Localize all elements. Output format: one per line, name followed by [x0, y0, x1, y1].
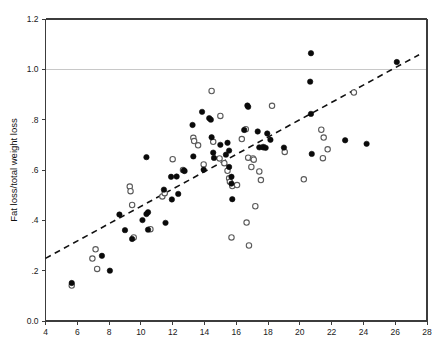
data-point-filled-15 — [174, 174, 179, 179]
data-point-filled-49 — [309, 151, 314, 156]
axes-group — [46, 19, 428, 321]
data-point-filled-12 — [163, 220, 168, 225]
data-point-filled-38 — [242, 127, 247, 132]
x-tick-label-11: 26 — [390, 327, 400, 337]
data-point-open-6 — [129, 202, 134, 207]
data-point-filled-24 — [208, 117, 213, 122]
data-point-open-20 — [217, 156, 222, 161]
scatter-plot-figure: 0.0.2.4.6.81.01.246810121416182022242628… — [0, 0, 444, 349]
data-point-filled-22 — [201, 167, 206, 172]
y-tick-label-2: .4 — [31, 215, 38, 225]
data-point-filled-7 — [144, 154, 149, 159]
data-point-filled-50 — [342, 138, 347, 143]
data-point-filled-11 — [161, 187, 166, 192]
data-point-filled-44 — [268, 137, 273, 142]
x-tick-label-2: 8 — [107, 327, 112, 337]
x-tick-label-4: 12 — [168, 327, 178, 337]
data-point-filled-1 — [99, 253, 104, 258]
data-point-open-45 — [321, 135, 326, 140]
data-point-filled-16 — [176, 191, 181, 196]
regression-line — [46, 55, 420, 259]
trend-line — [46, 55, 420, 259]
data-point-open-32 — [246, 243, 251, 248]
data-point-open-19 — [218, 113, 223, 118]
data-point-open-43 — [319, 127, 324, 132]
data-point-open-1 — [90, 256, 95, 261]
axis-labels-group: Fat loss/total weight loss — [8, 118, 19, 222]
data-point-open-5 — [128, 188, 133, 193]
data-point-filled-25 — [209, 135, 214, 140]
data-point-open-17 — [209, 88, 214, 93]
data-point-filled-46 — [308, 51, 313, 56]
x-tick-label-3: 10 — [136, 327, 146, 337]
data-point-filled-4 — [122, 227, 127, 232]
data-point-filled-0 — [69, 280, 74, 285]
x-tick-label-7: 18 — [263, 327, 273, 337]
x-tick-label-10: 24 — [359, 327, 369, 337]
data-point-filled-52 — [394, 59, 399, 64]
data-point-open-15 — [195, 143, 200, 148]
data-point-filled-35 — [230, 196, 235, 201]
y-axis-title: Fat loss/total weight loss — [8, 118, 19, 222]
data-point-filled-37 — [245, 104, 250, 109]
x-tick-label-8: 20 — [295, 327, 305, 337]
data-point-filled-5 — [129, 236, 134, 241]
data-point-filled-39 — [255, 129, 260, 134]
data-point-filled-43 — [265, 131, 270, 136]
data-point-filled-30 — [225, 140, 230, 145]
y-tick-label-3: .6 — [31, 165, 38, 175]
data-point-filled-14 — [169, 197, 174, 202]
data-points-filled — [69, 51, 399, 286]
y-tick-label-4: .8 — [31, 115, 38, 125]
data-point-open-28 — [239, 136, 244, 141]
data-point-filled-26 — [211, 150, 216, 155]
data-point-filled-9 — [145, 210, 150, 215]
y-tick-label-6: 1.2 — [27, 14, 39, 24]
data-point-filled-45 — [281, 145, 286, 150]
data-point-open-33 — [249, 164, 254, 169]
x-tick-label-5: 14 — [200, 327, 210, 337]
data-point-filled-3 — [117, 212, 122, 217]
plot-canvas: 0.0.2.4.6.81.01.246810121416182022242628… — [0, 0, 444, 349]
y-tick-label-5: 1.0 — [27, 64, 39, 74]
data-point-filled-32 — [226, 164, 231, 169]
x-tick-label-6: 16 — [232, 327, 242, 337]
data-point-filled-48 — [308, 111, 313, 116]
data-point-filled-21 — [199, 109, 204, 114]
data-point-open-3 — [94, 266, 99, 271]
data-point-filled-33 — [229, 174, 234, 179]
data-point-filled-28 — [218, 142, 223, 147]
data-point-open-21 — [222, 161, 227, 166]
data-point-open-2 — [93, 247, 98, 252]
x-tick-label-1: 6 — [75, 327, 80, 337]
data-point-filled-42 — [263, 145, 268, 150]
data-point-open-11 — [170, 156, 175, 161]
data-point-filled-13 — [168, 174, 173, 179]
data-point-open-37 — [257, 169, 262, 174]
x-tick-label-12: 28 — [422, 327, 432, 337]
data-point-filled-27 — [211, 155, 216, 160]
data-point-filled-19 — [190, 122, 195, 127]
data-point-filled-51 — [364, 141, 369, 146]
data-point-open-30 — [244, 220, 249, 225]
data-point-open-42 — [301, 177, 306, 182]
data-point-open-46 — [325, 147, 330, 152]
data-point-filled-10 — [145, 227, 150, 232]
data-point-open-35 — [251, 157, 256, 162]
data-point-open-16 — [201, 162, 206, 167]
data-point-open-38 — [258, 177, 263, 182]
x-tick-label-0: 4 — [43, 327, 48, 337]
y-tick-label-1: .2 — [31, 266, 38, 276]
y-tick-label-0: 0.0 — [27, 316, 39, 326]
data-point-open-36 — [253, 204, 258, 209]
data-point-open-27 — [234, 182, 239, 187]
data-point-filled-47 — [307, 79, 312, 84]
data-point-open-47 — [351, 90, 356, 95]
x-tick-label-9: 22 — [327, 327, 337, 337]
data-point-filled-20 — [191, 154, 196, 159]
data-point-open-26 — [229, 235, 234, 240]
data-point-filled-2 — [107, 268, 112, 273]
data-point-filled-6 — [140, 217, 145, 222]
data-point-open-44 — [320, 155, 325, 160]
data-point-filled-34 — [229, 181, 234, 186]
